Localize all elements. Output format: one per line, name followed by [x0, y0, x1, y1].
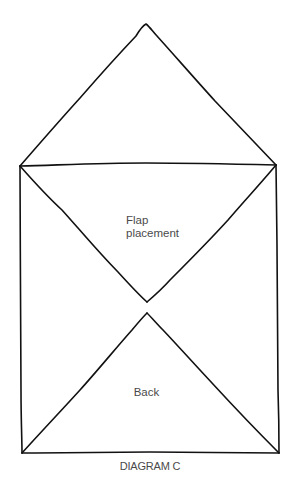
back-left-line — [22, 313, 147, 453]
back-label: Back — [0, 386, 293, 399]
right-edge — [276, 165, 279, 453]
top-flap-outline — [20, 24, 276, 166]
back-right-line — [147, 313, 279, 453]
envelope-diagram — [0, 0, 302, 495]
bottom-edge — [22, 452, 279, 453]
flap-label-line1: Flap — [126, 214, 179, 227]
flap-placement-label: Flap placement — [126, 214, 179, 240]
flap-label-line2: placement — [126, 227, 179, 240]
left-edge — [20, 166, 22, 453]
fold-line — [20, 163, 276, 166]
diagram-caption: DIAGRAM C — [0, 460, 300, 473]
